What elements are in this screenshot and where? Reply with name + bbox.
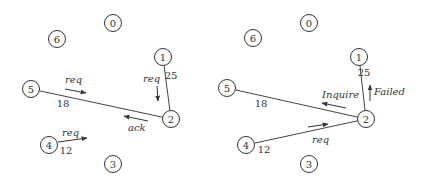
node-3: 3 — [301, 156, 318, 173]
message-arrow-icon — [308, 124, 328, 127]
node-5: 5 — [23, 81, 40, 98]
edge-weight-label: 12 — [60, 145, 73, 156]
node-1: 1 — [155, 49, 172, 66]
node-label: 4 — [46, 140, 52, 151]
message-label-req: req — [62, 127, 79, 138]
node-label: 5 — [28, 84, 34, 95]
message-label-inquire: Inquire — [321, 89, 359, 100]
edge-weight-label: 25 — [165, 70, 178, 81]
node-label: 2 — [363, 114, 369, 125]
message-label-failed: Failed — [373, 86, 405, 97]
node-label: 3 — [110, 159, 116, 170]
message-label-ack: ack — [128, 122, 146, 133]
node-5: 5 — [219, 80, 236, 97]
node-label: 1 — [160, 52, 166, 63]
node-label: 5 — [224, 83, 230, 94]
node-6: 6 — [245, 30, 262, 47]
edge-weight-label: 18 — [255, 98, 268, 109]
message-arrow-icon — [157, 86, 158, 101]
message-arrow-icon — [322, 103, 346, 108]
node-1: 1 — [351, 49, 368, 66]
message-label-req: req — [143, 73, 160, 84]
message-arrow-icon — [124, 116, 148, 121]
node-label: 3 — [306, 159, 312, 170]
node-label: 6 — [54, 34, 60, 45]
node-label: 1 — [356, 52, 362, 63]
node-0: 0 — [105, 15, 122, 32]
message-arrow-icon — [58, 138, 87, 142]
edge-weight-label: 12 — [258, 144, 271, 155]
message-label-req: req — [312, 134, 329, 145]
edge-weight-label: 18 — [57, 98, 70, 109]
node-3: 3 — [105, 156, 122, 173]
node-0: 0 — [301, 15, 318, 32]
edge-weight-label: 25 — [358, 67, 371, 78]
node-6: 6 — [49, 31, 66, 48]
node-4: 4 — [41, 137, 58, 154]
edge-4-2 — [254, 121, 357, 143]
message-label-req: req — [65, 74, 82, 85]
node-4: 4 — [238, 137, 255, 154]
node-label: 6 — [250, 33, 256, 44]
node-2: 2 — [358, 111, 375, 128]
node-label: 4 — [243, 140, 249, 151]
node-2: 2 — [163, 111, 180, 128]
message-arrow-icon — [65, 89, 86, 93]
node-label: 0 — [110, 18, 116, 29]
distributed-mutex-diagram: 251812251812 reqreqackreqInquireFailedre… — [0, 0, 421, 184]
node-label: 2 — [168, 114, 174, 125]
node-label: 0 — [306, 18, 312, 29]
